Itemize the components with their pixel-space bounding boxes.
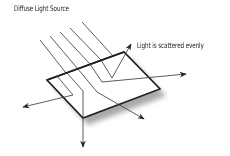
incoming-ray: [50, 36, 78, 69]
diagram-canvas: [0, 0, 230, 156]
incoming-ray: [40, 40, 66, 73]
diffuse-light-source-label: Diffuse Light Source: [14, 4, 69, 13]
reflecting-surface: [47, 52, 160, 118]
incoming-ray: [82, 22, 113, 56]
incoming-ray: [60, 32, 90, 64]
incoming-ray: [70, 28, 101, 60]
light-scattered-evenly-label: Light is scattered evenly: [137, 41, 204, 50]
diffuse-reflection-diagram: Diffuse Light Source Light is scattered …: [0, 0, 230, 156]
